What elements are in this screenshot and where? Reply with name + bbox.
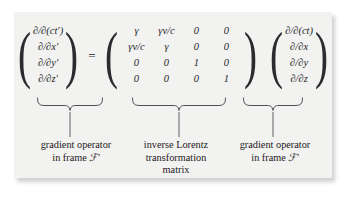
- left-paren-open-icon: (: [18, 22, 31, 89]
- right-vector: ∂/∂(ct) ∂/∂x ∂/∂y ∂/∂z: [284, 22, 314, 89]
- matrix-cell-2-3: 0: [211, 55, 241, 71]
- matrix-paren-open-icon: (: [105, 22, 118, 89]
- matrix-group: ( γ γv/c 0 0 γv/c γ 0 0 0 0 1 0 0 0 0 1 …: [101, 22, 261, 89]
- right-paren-close-icon: ): [315, 22, 328, 89]
- right-vector-cell-0: ∂/∂(ct): [285, 23, 313, 39]
- underbrace-left-icon: [36, 96, 104, 138]
- caption-left-line1: gradient operator: [18, 139, 134, 152]
- underbrace-center-icon: [131, 96, 227, 138]
- left-paren-close-icon: ): [65, 22, 78, 89]
- left-vector-cell-2: ∂/∂y′: [33, 55, 63, 71]
- matrix-cell-1-1: γ: [151, 39, 181, 55]
- right-vector-cell-3: ∂/∂z: [285, 71, 313, 87]
- figure-card: ( ∂/∂(ct′) ∂/∂x′ ∂/∂y′ ∂/∂z′ ) = ( γ γv/…: [14, 12, 332, 178]
- left-vector-cell-1: ∂/∂x′: [33, 39, 63, 55]
- caption-left-line2-prefix: in frame: [52, 152, 89, 163]
- matrix-cell-0-3: 0: [211, 23, 241, 39]
- equation-row: ( ∂/∂(ct′) ∂/∂x′ ∂/∂y′ ∂/∂z′ ) = ( γ γv/…: [14, 16, 332, 94]
- caption-right-line2: in frame ℱ′: [217, 152, 333, 165]
- caption-right-line2-prefix: in frame: [251, 152, 288, 163]
- left-vector-group: ( ∂/∂(ct′) ∂/∂x′ ∂/∂y′ ∂/∂z′ ): [14, 22, 82, 89]
- matrix-cell-0-2: 0: [181, 23, 211, 39]
- matrix-cell-1-2: 0: [181, 39, 211, 55]
- left-vector-cell-3: ∂/∂z′: [33, 71, 63, 87]
- caption-right: gradient operator in frame ℱ′: [217, 139, 333, 164]
- caption-center-line3: matrix: [126, 164, 226, 177]
- left-vector: ∂/∂(ct′) ∂/∂x′ ∂/∂y′ ∂/∂z′: [32, 22, 64, 89]
- matrix-cell-2-2: 1: [181, 55, 211, 71]
- matrix-cell-3-2: 0: [181, 71, 211, 87]
- equals-sign: =: [82, 49, 101, 62]
- right-vector-cell-2: ∂/∂y: [285, 55, 313, 71]
- matrix-cell-3-3: 1: [211, 71, 241, 87]
- right-paren-open-icon: (: [270, 22, 283, 89]
- underbrace-right-icon: [242, 96, 304, 138]
- lorentz-matrix: γ γv/c 0 0 γv/c γ 0 0 0 0 1 0 0 0 0 1: [119, 22, 243, 89]
- matrix-cell-1-3: 0: [211, 39, 241, 55]
- matrix-cell-0-1: γv/c: [151, 23, 181, 39]
- caption-left: gradient operator in frame ℱ′: [18, 139, 134, 164]
- matrix-cell-3-1: 0: [151, 71, 181, 87]
- left-vector-cell-0: ∂/∂(ct′): [33, 23, 63, 39]
- matrix-cell-2-0: 0: [121, 55, 151, 71]
- matrix-cell-3-0: 0: [121, 71, 151, 87]
- matrix-cell-1-0: γv/c: [121, 39, 151, 55]
- caption-left-frame-symbol: ℱ′: [89, 152, 99, 163]
- caption-left-line2: in frame ℱ′: [18, 152, 134, 165]
- matrix-cell-2-1: 0: [151, 55, 181, 71]
- matrix-paren-close-icon: ): [244, 22, 257, 89]
- caption-right-line1: gradient operator: [217, 139, 333, 152]
- caption-center: inverse Lorentz transformation matrix: [126, 139, 226, 177]
- matrix-cell-0-0: γ: [121, 23, 151, 39]
- caption-center-line1: inverse Lorentz: [126, 139, 226, 152]
- right-vector-cell-1: ∂/∂x: [285, 39, 313, 55]
- right-vector-group: ( ∂/∂(ct) ∂/∂x ∂/∂y ∂/∂z ): [266, 22, 332, 89]
- caption-right-frame-symbol: ℱ′: [288, 152, 298, 163]
- caption-center-line2: transformation: [126, 152, 226, 165]
